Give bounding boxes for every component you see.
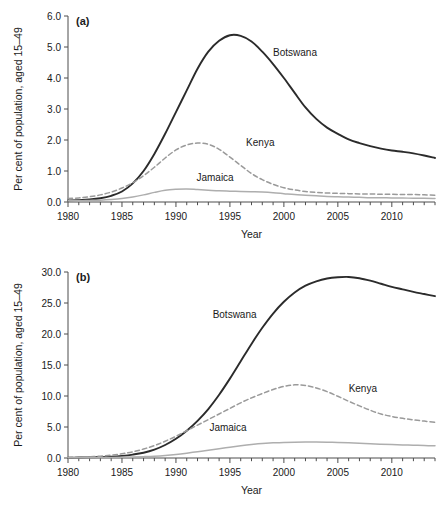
x-tick-label: 1985	[111, 467, 134, 478]
x-tick-label: 1980	[57, 467, 80, 478]
y-tick-label: 25.0	[42, 298, 62, 309]
chart-panel-a: 0.01.02.03.04.05.06.01980198519901995200…	[0, 0, 443, 258]
y-tick-label: 10.0	[42, 391, 62, 402]
x-tick-label: 2010	[381, 467, 404, 478]
x-tick-label: 2000	[273, 211, 296, 222]
series-label-jamaica: Jamaica	[209, 422, 247, 433]
panel-letter: (a)	[76, 15, 90, 27]
x-axis-title: Year	[241, 484, 263, 496]
panel-letter: (b)	[76, 271, 90, 283]
figure-hiv-prevalence: 0.01.02.03.04.05.06.01980198519901995200…	[0, 0, 443, 514]
y-tick-label: 2.0	[47, 135, 61, 146]
y-tick-label: 1.0	[47, 166, 61, 177]
x-tick-label: 1995	[219, 467, 242, 478]
y-tick-label: 0.0	[47, 197, 61, 208]
series-label-botswana: Botswana	[273, 47, 317, 58]
y-tick-label: 6.0	[47, 11, 61, 22]
y-axis-title: Per cent of population, aged 15–49	[12, 283, 24, 447]
series-line-botswana	[68, 277, 435, 458]
chart-panel-b: 0.05.010.015.020.025.030.019801985199019…	[0, 256, 443, 514]
series-line-kenya	[68, 385, 435, 458]
x-tick-label: 1980	[57, 211, 80, 222]
chart-svg-a: 0.01.02.03.04.05.06.01980198519901995200…	[0, 0, 443, 258]
x-tick-label: 1990	[165, 467, 188, 478]
series-label-botswana: Botswana	[213, 309, 257, 320]
series-label-kenya: Kenya	[246, 137, 275, 148]
x-tick-label: 1990	[165, 211, 188, 222]
y-tick-label: 30.0	[42, 267, 62, 278]
y-tick-label: 5.0	[47, 422, 61, 433]
x-tick-label: 2005	[327, 467, 350, 478]
x-tick-label: 1985	[111, 211, 134, 222]
y-tick-label: 20.0	[42, 329, 62, 340]
series-label-jamaica: Jamaica	[196, 172, 234, 183]
series-line-botswana	[68, 35, 435, 201]
x-tick-label: 1995	[219, 211, 242, 222]
x-axis-title: Year	[241, 228, 263, 240]
x-tick-label: 2000	[273, 467, 296, 478]
y-tick-label: 0.0	[47, 453, 61, 464]
y-tick-label: 4.0	[47, 73, 61, 84]
chart-svg-b: 0.05.010.015.020.025.030.019801985199019…	[0, 256, 443, 514]
y-tick-label: 3.0	[47, 104, 61, 115]
series-label-kenya: Kenya	[349, 383, 378, 394]
x-tick-label: 2005	[327, 211, 350, 222]
y-tick-label: 15.0	[42, 360, 62, 371]
x-tick-label: 2010	[381, 211, 404, 222]
y-tick-label: 5.0	[47, 42, 61, 53]
y-axis-title: Per cent of population, aged 15–49	[12, 27, 24, 191]
